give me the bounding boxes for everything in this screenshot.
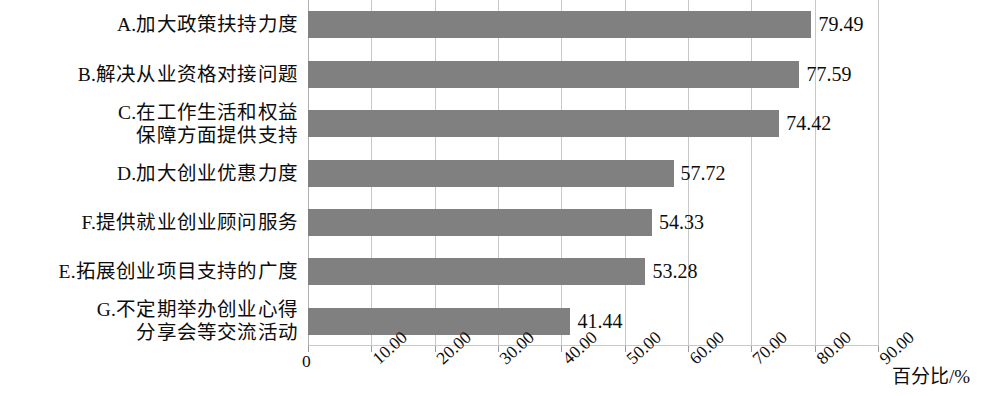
category-label: F.提供就业创业顾问服务 bbox=[0, 211, 298, 234]
bar-value-label: 54.33 bbox=[659, 209, 704, 236]
gridline-70 bbox=[751, 0, 752, 346]
bar-value-label: 53.28 bbox=[652, 258, 697, 285]
category-label: E.拓展创业项目支持的广度 bbox=[0, 260, 298, 283]
bar bbox=[308, 209, 652, 236]
x-tick-label: 90.00 bbox=[876, 328, 918, 368]
bar-value-label: 79.49 bbox=[818, 11, 863, 38]
bar bbox=[308, 11, 811, 38]
gridline-90 bbox=[878, 0, 879, 346]
bar-value-label: 57.72 bbox=[681, 160, 726, 187]
category-label: B.解决从业资格对接问题 bbox=[0, 63, 298, 86]
category-label: A.加大政策扶持力度 bbox=[0, 13, 298, 36]
category-label: G.不定期举办创业心得 分享会等交流活动 bbox=[0, 298, 298, 344]
x-tick-label: 0 bbox=[302, 352, 311, 371]
bar bbox=[308, 61, 799, 88]
category-label: D.加大创业优惠力度 bbox=[0, 162, 298, 185]
horizontal-bar-chart: A.加大政策扶持力度B.解决从业资格对接问题C.在工作生活和权益 保障方面提供支… bbox=[0, 0, 993, 396]
category-label: C.在工作生活和权益 保障方面提供支持 bbox=[0, 101, 298, 147]
x-axis: 百分比/% 010.0020.0030.0040.0050.0060.0070.… bbox=[308, 346, 993, 396]
bar-value-label: 77.59 bbox=[806, 61, 851, 88]
plot-area: 79.4977.5974.4257.7254.3353.2841.44 bbox=[308, 0, 878, 346]
bar bbox=[308, 160, 674, 187]
gridline-80 bbox=[815, 0, 816, 346]
category-axis-labels: A.加大政策扶持力度B.解决从业资格对接问题C.在工作生活和权益 保障方面提供支… bbox=[0, 0, 303, 346]
bar bbox=[308, 110, 779, 137]
bar-value-label: 74.42 bbox=[786, 110, 831, 137]
bar bbox=[308, 258, 645, 285]
x-axis-title: 百分比/% bbox=[892, 366, 970, 388]
bar bbox=[308, 308, 570, 335]
